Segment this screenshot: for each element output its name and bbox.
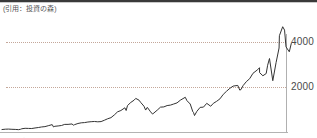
series-line-sp500 — [2, 27, 291, 130]
series-line-svg — [0, 0, 317, 138]
chart-screenshot: (引用：投資の森) 4000 2000 1980(年) 1990 2000 20… — [0, 0, 317, 138]
